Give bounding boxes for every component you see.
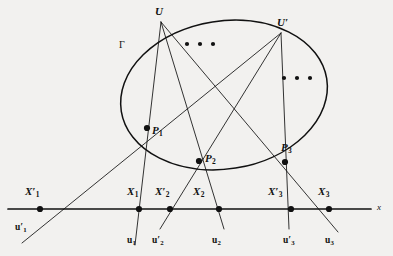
point-label-X1prime-sub: 1 xyxy=(36,190,40,199)
point-label-X1-base: X xyxy=(127,185,134,197)
point-label-X3-sub: 3 xyxy=(326,190,330,199)
ellipsis-dot xyxy=(308,76,312,80)
point-label-X1prime: X′1 xyxy=(25,186,39,199)
line-Uprime-P1-u1prime xyxy=(22,33,281,243)
point-marker-P2 xyxy=(196,158,202,164)
vertex-label-U: U xyxy=(155,6,163,17)
prime-mark: ′ xyxy=(285,16,288,28)
point-label-P3-sub: 3 xyxy=(288,146,292,155)
geometry-figure: Γ U U′ P1 P2 P3 X′1 X1 X′2 X2 X′3 X3 u′1… xyxy=(0,0,393,256)
point-label-P3-base: P xyxy=(281,141,288,153)
ellipsis-dots-lower xyxy=(282,76,312,80)
vertex-label-U-text: U xyxy=(155,5,163,17)
ray-label-u3prime-sub: 3 xyxy=(291,239,294,246)
ray-label-u1-sub: 1 xyxy=(133,239,136,246)
conic-gamma-ellipse xyxy=(110,6,339,185)
x-axis-label: x xyxy=(377,203,381,212)
point-marker-X1prime xyxy=(37,206,43,212)
point-label-P1: P1 xyxy=(152,125,163,138)
prime-mark: ′ xyxy=(32,185,35,197)
figure-canvas xyxy=(0,0,393,256)
point-label-P3: P3 xyxy=(281,142,292,155)
ellipsis-dot xyxy=(295,76,299,80)
ray-label-u2prime-sub: 2 xyxy=(160,239,163,246)
ray-label-u1: u1 xyxy=(127,236,136,247)
ray-label-u1prime: u′1 xyxy=(15,223,27,234)
conic-label-gamma: Γ xyxy=(119,40,125,50)
ellipsis-dot xyxy=(198,42,202,46)
ray-label-u3-sub: 3 xyxy=(331,239,334,246)
point-label-X1-sub: 1 xyxy=(135,190,139,199)
point-label-P2: P2 xyxy=(205,153,216,166)
point-marker-X2prime xyxy=(167,206,173,212)
point-marker-X3prime xyxy=(288,206,294,212)
ray-label-u2-sub: 2 xyxy=(218,239,221,246)
ray-label-u3prime: u′3 xyxy=(283,236,295,247)
point-label-X2: X2 xyxy=(193,186,204,199)
point-label-X1: X1 xyxy=(127,186,138,199)
point-label-P1-base: P xyxy=(152,124,159,136)
point-marker-P3 xyxy=(282,159,288,165)
point-label-X3: X3 xyxy=(318,186,329,199)
ellipsis-dots-upper xyxy=(185,42,215,46)
ellipsis-dot xyxy=(282,76,286,80)
point-label-P2-sub: 2 xyxy=(212,157,216,166)
line-Uprime-P2-u2prime xyxy=(160,33,281,229)
ray-label-u2-base: u xyxy=(212,235,217,245)
point-marker-X2 xyxy=(216,206,222,212)
vertex-label-Uprime-text: U xyxy=(277,16,285,28)
ray-label-u2: u2 xyxy=(212,236,221,247)
line-Uprime-P3-u3prime xyxy=(281,33,289,229)
point-label-P1-sub: 1 xyxy=(159,129,163,138)
vertex-label-Uprime: U′ xyxy=(277,17,288,28)
ray-label-u1prime-sub: 1 xyxy=(23,226,26,233)
point-label-X3-base: X xyxy=(318,185,325,197)
point-label-X2prime: X′2 xyxy=(155,186,169,199)
point-label-X2prime-sub: 2 xyxy=(166,190,170,199)
ellipsis-dot xyxy=(185,42,189,46)
point-label-X2-sub: 2 xyxy=(201,190,205,199)
ray-label-u2prime: u′2 xyxy=(152,236,164,247)
point-label-X3prime-sub: 3 xyxy=(279,190,283,199)
point-marker-X3 xyxy=(326,206,332,212)
point-label-X3prime: X′3 xyxy=(268,186,282,199)
ray-label-u3-base: u xyxy=(325,235,330,245)
prime-mark: ′ xyxy=(162,185,165,197)
ray-label-u3: u3 xyxy=(325,236,334,247)
point-label-P2-base: P xyxy=(205,152,212,164)
prime-mark: ′ xyxy=(275,185,278,197)
point-label-X2-base: X xyxy=(193,185,200,197)
point-marker-P1 xyxy=(144,125,150,131)
point-marker-X1 xyxy=(136,206,142,212)
ellipsis-dot xyxy=(211,42,215,46)
ray-label-u1-base: u xyxy=(127,235,132,245)
